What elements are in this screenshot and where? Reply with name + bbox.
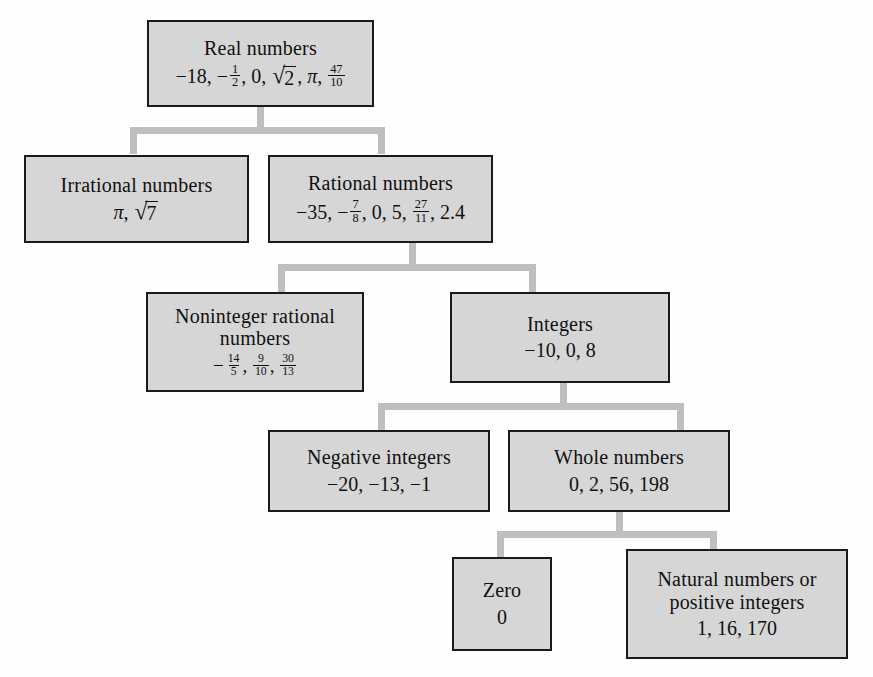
node-real-numbers-label: Real numbers [204, 37, 317, 59]
node-noninteger-rational-numbers[interactable]: Noninteger rational numbers −145 , 910 ,… [146, 292, 364, 392]
node-whole-numbers[interactable]: Whole numbers 0, 2, 56, 198 [508, 430, 730, 512]
connector-drop-whole [677, 403, 684, 431]
node-noninteger-rational-numbers-examples: −145 , 910 , 3013 [213, 354, 297, 380]
connector-drop-rational [378, 127, 385, 154]
node-zero-label: Zero [483, 579, 522, 601]
node-integers-label: Integers [527, 313, 593, 335]
node-rational-numbers-examples: −35, −78 , 0, 5, 2711 , 2.4 [296, 199, 465, 226]
number-classification-diagram: Real numbers −18, −12 , 0, √2 , π, 4710 … [0, 0, 873, 677]
node-whole-numbers-examples: 0, 2, 56, 198 [569, 473, 669, 496]
node-whole-numbers-label: Whole numbers [554, 446, 684, 468]
node-noninteger-rational-numbers-label: Noninteger rational numbers [175, 305, 335, 350]
connector-integers-bar [378, 403, 684, 410]
node-irrational-numbers[interactable]: Irrational numbers π, √7 [24, 155, 249, 243]
node-natural-numbers[interactable]: Natural numbers or positive integers 1, … [626, 549, 848, 659]
connector-drop-integers [529, 264, 536, 292]
connector-real-bar [130, 127, 385, 134]
node-irrational-numbers-label: Irrational numbers [61, 174, 213, 196]
node-negative-integers[interactable]: Negative integers −20, −13, −1 [268, 430, 490, 512]
connector-whole-bar [497, 531, 717, 538]
node-rational-numbers[interactable]: Rational numbers −35, −78 , 0, 5, 2711 ,… [268, 155, 493, 243]
node-rational-numbers-label: Rational numbers [308, 172, 453, 194]
connector-drop-noninteger [278, 264, 285, 292]
node-real-numbers-examples: −18, −12 , 0, √2 , π, 4710 [175, 63, 345, 90]
node-natural-numbers-examples: 1, 16, 170 [697, 617, 777, 640]
connector-rational-bar [278, 264, 536, 271]
node-zero-examples: 0 [497, 606, 507, 629]
node-negative-integers-label: Negative integers [307, 446, 451, 468]
connector-drop-zero [497, 531, 504, 559]
connector-drop-irrational [130, 127, 137, 154]
node-integers-examples: −10, 0, 8 [524, 339, 595, 362]
node-real-numbers[interactable]: Real numbers −18, −12 , 0, √2 , π, 4710 [147, 20, 374, 107]
node-irrational-numbers-examples: π, √7 [114, 201, 160, 224]
node-zero[interactable]: Zero 0 [452, 557, 552, 651]
node-natural-numbers-label: Natural numbers or positive integers [657, 568, 816, 613]
node-integers[interactable]: Integers −10, 0, 8 [450, 292, 670, 383]
connector-drop-negative [378, 403, 385, 431]
node-negative-integers-examples: −20, −13, −1 [327, 473, 431, 496]
